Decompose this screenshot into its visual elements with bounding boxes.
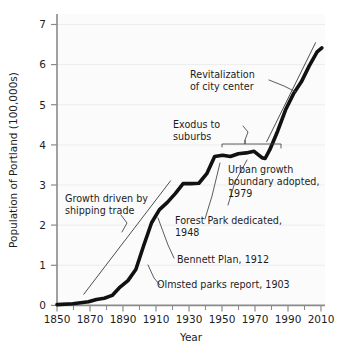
annotation-forest-park-line-0: Forest Park dedicated, [175,215,282,226]
x-axis: 1850 1870 1890 1910 1930 1950 1970 1990 … [44,305,335,343]
x-tick-label-1950: 1950 [209,313,236,325]
x-tick-label-1970: 1970 [242,313,269,325]
annotation-exodus-line-1: suburbs [173,131,211,142]
x-tick-label-1890: 1890 [110,313,137,325]
y-tick-label-7: 7 [39,18,46,30]
y-tick-label-5: 5 [39,99,46,111]
x-tick-label-1910: 1910 [143,313,170,325]
annotation-exodus-line-0: Exodus to [173,119,220,130]
annotation-urban-growth-line-1: boundary adopted, [228,176,320,187]
y-tick-label-3: 3 [39,179,46,191]
population-line-chart: 7 6 5 4 3 2 1 0 Population of Portland (… [0,0,339,349]
annotation-urban-growth-line-0: Urban growth [228,164,293,175]
annotation-bennett-plan: Bennett Plan, 1912 [177,254,269,265]
y-tick-label-6: 6 [39,58,46,70]
y-tick-label-0: 0 [39,299,46,311]
x-tick-label-1930: 1930 [176,313,203,325]
annotation-bennett-plan-line-0: Bennett Plan, 1912 [177,254,269,265]
annotation-revitalization-line-0: Revitalization [190,69,255,80]
chart-figure: 7 6 5 4 3 2 1 0 Population of Portland (… [0,0,339,349]
annotation-olmsted-report: Olmsted parks report, 1903 [157,279,290,290]
annotation-shipping-line-1: shipping trade [65,205,134,216]
x-axis-title: Year [179,331,203,343]
y-axis: 7 6 5 4 3 2 1 0 Population of Portland (… [7,14,57,311]
x-tick-label-1990: 1990 [275,313,302,325]
x-tick-label-1850: 1850 [44,313,71,325]
x-tick-label-2010: 2010 [308,313,335,325]
annotation-olmsted-line-0: Olmsted parks report, 1903 [157,279,290,290]
annotation-revitalization: Revitalization of city center [190,69,255,92]
y-tick-label-4: 4 [39,139,46,151]
y-axis-title: Population of Portland (100,000s) [7,72,19,248]
annotation-forest-park-line-1: 1948 [175,227,199,238]
annotation-revitalization-line-1: of city center [190,81,254,92]
y-tick-label-2: 2 [39,219,46,231]
x-tick-label-1870: 1870 [77,313,104,325]
y-tick-label-1: 1 [39,259,46,271]
annotation-shipping-line-0: Growth driven by [65,193,148,204]
annotation-urban-growth-line-2: 1979 [228,188,252,199]
